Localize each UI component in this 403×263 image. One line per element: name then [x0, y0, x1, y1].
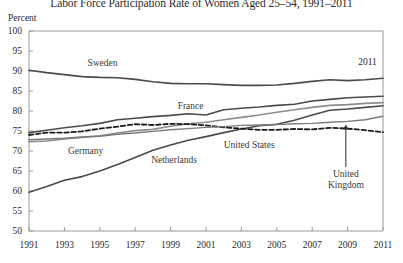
- x-tick-label-2011: 2011: [366, 240, 400, 250]
- y-tick-label-95: 95: [2, 46, 22, 56]
- y-tick-label-70: 70: [2, 146, 22, 156]
- x-tick-label-2003: 2003: [224, 240, 258, 250]
- y-tick-label-65: 65: [2, 166, 22, 176]
- x-tick-label-2001: 2001: [189, 240, 223, 250]
- y-tick-label-50: 50: [2, 226, 22, 236]
- y-tick-label-90: 90: [2, 66, 22, 76]
- endpoint-year-annotation: 2011: [358, 57, 377, 67]
- x-tick-label-1997: 1997: [118, 240, 152, 250]
- series-label-netherlands: Netherlands: [151, 155, 197, 165]
- y-tick-label-75: 75: [2, 126, 22, 136]
- plot-area: [0, 0, 403, 263]
- x-tick-label-1991: 1991: [12, 240, 46, 250]
- y-tick-label-55: 55: [2, 206, 22, 216]
- chart-figure: Labor Force Participation Rate of Women …: [0, 0, 403, 263]
- series-line-sweden: [29, 70, 383, 85]
- x-tick-label-2007: 2007: [295, 240, 329, 250]
- x-tick-label-1993: 1993: [47, 240, 81, 250]
- x-tick-label-2009: 2009: [331, 240, 365, 250]
- series-label-germany: Germany: [68, 146, 103, 156]
- y-tick-label-100: 100: [2, 26, 22, 36]
- y-tick-label-60: 60: [2, 186, 22, 196]
- series-label-france: France: [178, 101, 204, 111]
- series-label-united-kingdom: UnitedKingdom: [328, 169, 364, 191]
- series-label-sweden: Sweden: [87, 58, 117, 68]
- y-tick-label-80: 80: [2, 106, 22, 116]
- annotation-marks: [343, 125, 348, 167]
- series-label-united-states: United States: [224, 140, 275, 150]
- x-tick-label-1995: 1995: [83, 240, 117, 250]
- x-tick-label-1999: 1999: [154, 240, 188, 250]
- y-tick-label-85: 85: [2, 86, 22, 96]
- x-tick-label-2005: 2005: [260, 240, 294, 250]
